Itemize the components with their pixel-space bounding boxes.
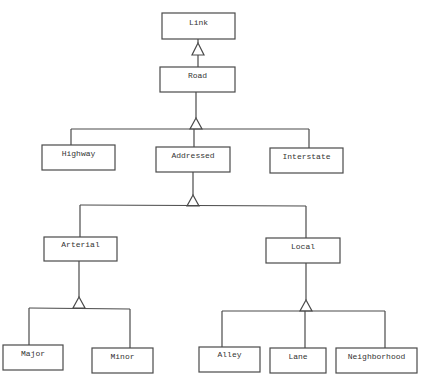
class-label-lane: Lane [288, 352, 307, 361]
class-box-major[interactable]: Major [3, 345, 63, 370]
class-label-minor: Minor [110, 352, 134, 361]
class-label-alley: Alley [217, 350, 241, 359]
class-box-lane[interactable]: Lane [270, 348, 326, 373]
class-hierarchy-diagram: Link Road Highway Addressed Interstate A… [0, 0, 432, 386]
class-box-alley[interactable]: Alley [199, 347, 260, 372]
class-box-minor[interactable]: Minor [92, 348, 153, 373]
class-label-interstate: Interstate [282, 152, 330, 161]
class-label-major: Major [21, 349, 45, 358]
class-box-link[interactable]: Link [162, 13, 235, 39]
class-box-local[interactable]: Local [266, 238, 340, 263]
class-box-neighborhood[interactable]: Neighborhood [336, 348, 417, 373]
class-label-addressed: Addressed [171, 151, 214, 160]
class-label-link: Link [189, 18, 208, 27]
class-box-arterial[interactable]: Arterial [44, 237, 117, 261]
class-label-neighborhood: Neighborhood [348, 352, 406, 361]
class-label-highway: Highway [62, 149, 96, 158]
class-label-arterial: Arterial [61, 240, 100, 249]
class-box-interstate[interactable]: Interstate [270, 148, 343, 173]
edge-local-children [222, 263, 385, 348]
generalization-arrow-icon [192, 43, 204, 55]
class-box-addressed[interactable]: Addressed [156, 147, 230, 172]
class-label-local: Local [291, 242, 315, 251]
edge-road-to-link [192, 39, 204, 67]
generalization-arrow-icon [190, 118, 202, 129]
edge-arterial-children [29, 261, 130, 348]
generalization-arrow-icon [300, 300, 312, 311]
edge-addressed-children [80, 172, 306, 238]
class-box-road[interactable]: Road [160, 67, 235, 92]
class-label-road: Road [188, 71, 207, 80]
generalization-arrow-icon [187, 195, 199, 206]
class-box-highway[interactable]: Highway [42, 145, 115, 170]
generalization-arrow-icon [73, 297, 85, 308]
edge-road-children [71, 92, 309, 148]
